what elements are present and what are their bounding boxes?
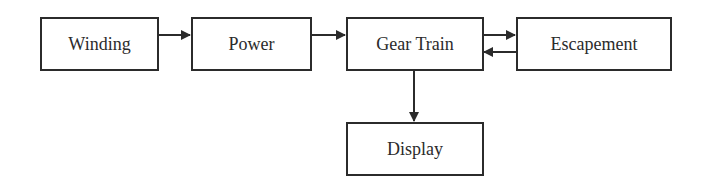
node-gear-train: Gear Train [346,17,484,71]
node-power: Power [191,17,312,71]
node-label: Winding [68,34,130,55]
node-label: Gear Train [376,34,454,55]
node-label: Display [387,139,443,160]
node-escapement: Escapement [516,17,672,71]
node-display: Display [346,122,484,176]
node-winding: Winding [40,17,159,71]
node-label: Escapement [551,34,638,55]
node-label: Power [229,34,275,55]
